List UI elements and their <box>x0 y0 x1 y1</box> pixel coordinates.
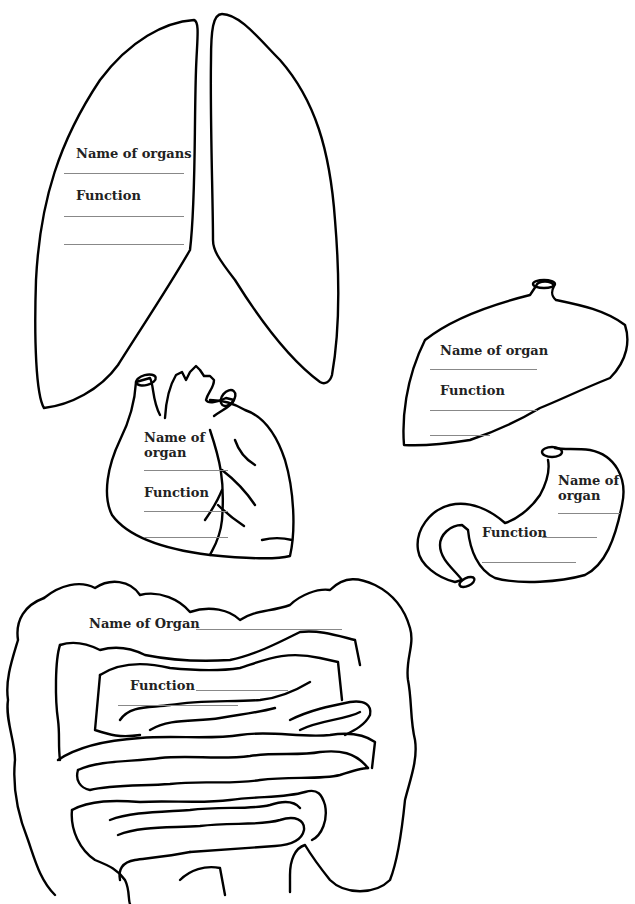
stomach-name-label-line1: Name of <box>558 473 619 488</box>
heart-name-label-line2: organ <box>144 445 187 460</box>
stomach-function-answer-line-1[interactable] <box>542 537 597 538</box>
liver-function-answer-line-1[interactable] <box>430 410 537 411</box>
left-lung-outline <box>35 20 197 408</box>
organ-worksheet-drawing <box>0 0 635 904</box>
lungs-function-answer-line-1[interactable] <box>64 216 184 217</box>
lungs-function-label: Function <box>76 188 141 203</box>
stomach-function-answer-line-2[interactable] <box>482 562 576 563</box>
liver-outline <box>403 282 627 446</box>
stomach-name-label-line2: organ <box>558 488 601 503</box>
intestines-outline <box>7 579 415 904</box>
liver-function-label: Function <box>440 383 505 398</box>
heart-function-label: Function <box>144 485 209 500</box>
intestines-name-label: Name of Organ <box>89 616 200 631</box>
heart-name-answer-line[interactable] <box>144 470 228 471</box>
liver-function-answer-line-2[interactable] <box>430 435 490 436</box>
liver-name-answer-line[interactable] <box>430 369 537 370</box>
heart-name-label-line1: Name of <box>144 430 205 445</box>
heart-function-answer-line-1[interactable] <box>144 511 228 512</box>
heart-function-answer-line-2[interactable] <box>144 537 228 538</box>
stomach-name-answer-line[interactable] <box>558 513 620 514</box>
intestines-function-answer-line-1[interactable] <box>196 690 288 691</box>
liver-name-label: Name of organ <box>440 343 548 358</box>
intestines-name-answer-line[interactable] <box>196 629 342 630</box>
lungs-name-label: Name of organs <box>76 146 191 161</box>
right-lung-outline <box>211 14 339 383</box>
heart-outline <box>107 366 293 558</box>
intestines-function-label: Function <box>130 678 195 693</box>
lungs-function-answer-line-2[interactable] <box>64 244 184 245</box>
intestines-function-answer-line-2[interactable] <box>118 705 238 706</box>
stomach-outline <box>418 447 624 589</box>
lungs-name-answer-line[interactable] <box>64 173 184 174</box>
stomach-function-label: Function <box>482 525 547 540</box>
